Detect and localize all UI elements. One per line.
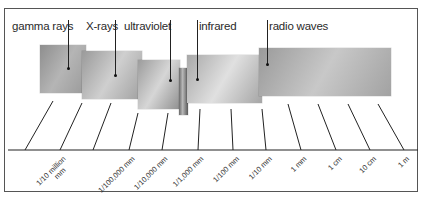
pointer-dot-gamma (67, 67, 70, 70)
scale-tick-line (129, 113, 138, 150)
band-label-infrared: infrared (199, 20, 236, 33)
scale-tick-line (262, 109, 266, 150)
band-label-xrays: X-rays (86, 20, 118, 33)
scale-tick-line (25, 101, 53, 150)
band-label-ultraviolet: ultraviolet (124, 20, 171, 33)
scale-tick-line (231, 109, 233, 150)
band-block-gamma (40, 45, 86, 93)
pointer-line-ultraviolet (170, 20, 171, 80)
pointer-dot-radio (266, 63, 269, 66)
pointer-line-xrays (115, 20, 116, 75)
scale-tick-line (318, 104, 336, 150)
band-label-gamma: gamma rays (12, 20, 73, 33)
scale-tick-line (162, 113, 168, 150)
band-block-ultraviolet (138, 60, 180, 109)
scale-tick-line (378, 104, 404, 150)
pointer-line-gamma (68, 20, 69, 68)
pointer-dot-infrared (196, 78, 199, 81)
spectrum-diagram: gamma raysX-raysultravioletinfraredradio… (0, 0, 422, 197)
pointer-line-radio (267, 20, 268, 64)
band-label-radio: radio waves (269, 20, 328, 33)
scale-tick-line (348, 104, 370, 150)
band-block-radio (259, 48, 391, 96)
band-block-xrays (82, 51, 142, 99)
pointer-dot-xrays (114, 74, 117, 77)
scale-tick-line (288, 104, 301, 150)
pointer-dot-ultraviolet (169, 79, 172, 82)
scale-tick-line (198, 109, 200, 150)
scale-tick-line (93, 103, 111, 150)
pointer-line-infrared (197, 20, 198, 79)
scale-tick-line (60, 103, 82, 150)
